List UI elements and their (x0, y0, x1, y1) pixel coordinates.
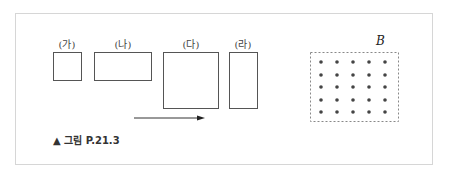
field-dot-icon (351, 85, 355, 89)
field-label-b: B (376, 34, 385, 48)
field-dot-icon (383, 60, 387, 64)
field-dot-icon (319, 60, 323, 64)
field-dot-icon (319, 73, 323, 77)
diagram-svg (0, 0, 450, 178)
field-dot-icon (351, 60, 355, 64)
field-dot-icon (319, 85, 323, 89)
figure-caption: ▲ 그림 P.21.3 (53, 132, 120, 147)
field-dot-icon (383, 73, 387, 77)
field-dot-icon (367, 73, 371, 77)
field-dot-icon (367, 60, 371, 64)
motion-arrow (134, 116, 205, 121)
field-dot-icon (335, 85, 339, 89)
field-dot-icon (335, 110, 339, 114)
field-dot-icon (335, 73, 339, 77)
field-dot-icon (319, 110, 323, 114)
field-dot-icon (335, 60, 339, 64)
field-dot-icon (367, 98, 371, 102)
field-dot-icon (383, 85, 387, 89)
field-dot-icon (319, 98, 323, 102)
field-dots (319, 60, 387, 114)
field-dot-icon (351, 73, 355, 77)
field-dot-icon (367, 110, 371, 114)
field-dot-icon (383, 110, 387, 114)
field-dot-icon (383, 98, 387, 102)
field-dot-icon (367, 85, 371, 89)
field-dot-icon (335, 98, 339, 102)
field-dot-icon (351, 110, 355, 114)
field-dot-icon (351, 98, 355, 102)
